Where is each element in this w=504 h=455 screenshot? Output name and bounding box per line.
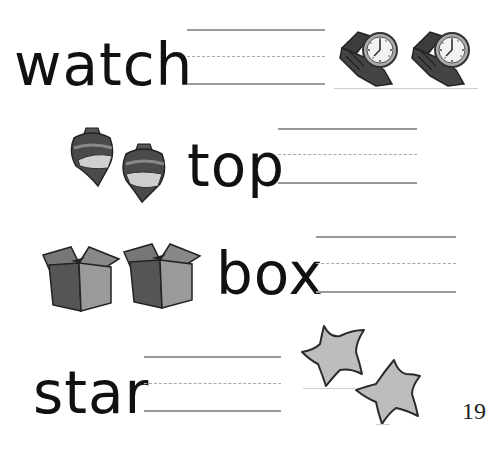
mid-guide-line	[278, 154, 417, 155]
word-label: box	[216, 245, 324, 303]
base-guide-line	[316, 291, 456, 293]
wristwatch-icon	[408, 26, 474, 90]
page-number: 19	[462, 398, 486, 425]
base-guide-line	[187, 83, 325, 85]
open-box-icon	[122, 240, 202, 310]
spinning-top-icon	[120, 140, 170, 204]
mid-guide-line	[144, 383, 281, 384]
mid-guide-line	[316, 263, 456, 264]
mid-guide-line	[187, 56, 325, 57]
picture-shadow	[303, 388, 355, 389]
top-guide-line	[278, 128, 417, 130]
top-guide-line	[187, 29, 325, 31]
word-label: watch	[14, 36, 193, 94]
picture-shadow	[376, 424, 390, 425]
top-guide-line	[316, 236, 456, 238]
open-box-icon	[41, 243, 121, 313]
word-label: top	[187, 137, 285, 195]
base-guide-line	[144, 410, 281, 412]
wristwatch-icon	[336, 26, 402, 90]
base-guide-line	[278, 182, 417, 184]
top-guide-line	[144, 356, 281, 358]
star-icon	[354, 358, 422, 426]
spinning-top-icon	[68, 124, 118, 188]
picture-shadow	[334, 88, 478, 89]
word-label: star	[33, 364, 149, 422]
